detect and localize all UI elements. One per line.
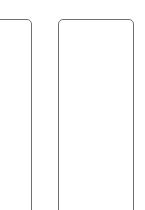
left-panel-box <box>0 19 32 210</box>
right-panel-box <box>58 19 134 210</box>
